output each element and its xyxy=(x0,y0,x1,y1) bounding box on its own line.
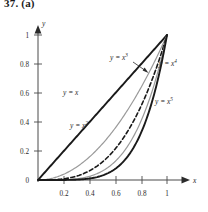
tick-label-origin: 0 xyxy=(25,177,29,185)
curve-y-x xyxy=(38,35,167,180)
plot-canvas: 0 0.2 0.4 0.6 0.8 1 0.2 0.4 0.6 0.8 1 y … xyxy=(0,0,208,212)
label-y-eq-x2: y = x2 xyxy=(69,120,88,130)
x-axis-label: x xyxy=(192,176,197,185)
label-y-eq-x-base: y = x xyxy=(62,88,79,97)
x-tick-label-1: 0.4 xyxy=(86,190,95,198)
label-y-eq-x2-exponent: 2 xyxy=(85,120,88,126)
x-tick-label-4: 1 xyxy=(165,190,169,198)
y-tick-label-1: 0.4 xyxy=(20,119,29,127)
label-y-eq-x3-base: y = x xyxy=(109,53,126,62)
label-y-eq-x5: y = x5 xyxy=(154,96,173,106)
x-tick-label-3: 0.8 xyxy=(138,190,147,198)
label-y-eq-x4: y = x4 xyxy=(158,58,177,68)
curves-group xyxy=(38,35,167,180)
label-y-eq-x3-exponent: 3 xyxy=(125,52,128,58)
x-axis-arrowhead xyxy=(182,177,191,184)
y-axis-arrowhead xyxy=(35,25,42,34)
label-y-eq-x2-base: y = x xyxy=(69,121,86,130)
y-tick-label-2: 0.6 xyxy=(20,90,29,98)
label-y-eq-x5-base: y = x xyxy=(154,97,171,106)
x-tick-label-2: 0.6 xyxy=(112,190,121,198)
label-y-eq-x: y = x xyxy=(62,88,79,97)
y-axis-label: y xyxy=(41,19,46,28)
y-tick-label-4: 1 xyxy=(25,32,29,40)
label-y-eq-x3: y = x3 xyxy=(109,52,128,62)
label-y-eq-x4-exponent: 4 xyxy=(174,58,177,64)
figure-container: 37. (a) 0 0.2 0.4 0.6 0.8 xyxy=(0,0,208,212)
x-tick-label-0: 0.2 xyxy=(60,190,69,198)
label-y-eq-x4-base: y = x xyxy=(158,59,175,68)
label-y-eq-x5-exponent: 5 xyxy=(170,96,173,102)
y-tick-label-0: 0.2 xyxy=(20,148,29,156)
y-tick-label-3: 0.8 xyxy=(20,61,29,69)
